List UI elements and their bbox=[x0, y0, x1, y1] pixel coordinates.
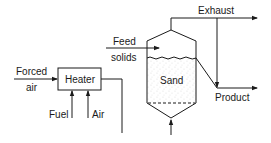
exhaust-arrow bbox=[171, 18, 257, 30]
heater-node: Heater bbox=[58, 68, 101, 90]
fuel-label: Fuel bbox=[49, 109, 68, 120]
product-overflow-line bbox=[196, 58, 217, 88]
forced-air-label-2: air bbox=[26, 82, 38, 93]
feed-label-1: Feed bbox=[113, 36, 136, 47]
process-diagram: Forced air Heater Fuel Air Feed solids S… bbox=[0, 0, 271, 143]
product-label: Product bbox=[215, 92, 250, 103]
heater-outlet-line bbox=[101, 79, 122, 133]
sand-label: Sand bbox=[160, 75, 183, 86]
feed-label-2: solids bbox=[111, 52, 137, 63]
product-stream: Product bbox=[196, 58, 257, 103]
forced-air-label-1: Forced bbox=[16, 66, 47, 77]
heater-label: Heater bbox=[65, 74, 96, 85]
air-stream: Air bbox=[88, 91, 105, 120]
fuel-stream: Fuel bbox=[49, 91, 72, 120]
air-label: Air bbox=[92, 109, 105, 120]
exhaust-label: Exhaust bbox=[198, 5, 234, 16]
sand-vessel: Sand bbox=[147, 30, 196, 135]
forced-air-stream: Forced air bbox=[14, 66, 57, 93]
